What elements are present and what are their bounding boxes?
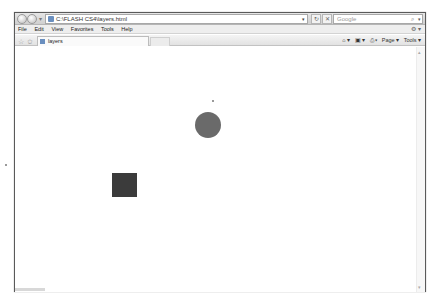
scroll-up-icon[interactable]: ▴: [418, 49, 421, 55]
command-bar: ⌂ ▾ ▣ ▾ ⎙ ▾ Page ▾ Tools ▾: [339, 35, 421, 46]
feeds-button[interactable]: ▣ ▾: [355, 37, 366, 43]
dark-square-shape: [112, 173, 137, 197]
address-text: C:\FLASH CS4\layers.html: [56, 16, 127, 22]
tab-bar: ☆ ✩ layers ⌂ ▾ ▣ ▾ ⎙ ▾ Page ▾ Tools ▾: [15, 35, 425, 46]
menu-help[interactable]: Help: [121, 26, 132, 32]
search-icon[interactable]: ⌕: [411, 15, 414, 23]
refresh-button[interactable]: ↻: [311, 14, 321, 24]
tab-layers[interactable]: layers: [37, 36, 149, 46]
vertical-scrollbar[interactable]: ▴ ▾: [416, 47, 425, 292]
menu-file[interactable]: File: [18, 26, 27, 32]
favorites-star-icon[interactable]: ☆: [18, 36, 24, 47]
page-icon: [40, 39, 45, 44]
menu-favorites[interactable]: Favorites: [71, 26, 94, 32]
small-dot: [5, 164, 7, 166]
small-dot: [212, 100, 214, 102]
menu-view[interactable]: View: [51, 26, 63, 32]
search-placeholder: Google: [337, 16, 356, 22]
address-dropdown-icon[interactable]: ▾: [302, 15, 305, 23]
search-input[interactable]: Google ⌕ ▾: [333, 14, 423, 24]
browser-window: ▾ C:\FLASH CS4\layers.html ▾ ↻ ✕ Google …: [14, 12, 426, 292]
back-button[interactable]: [17, 14, 27, 24]
menu-bar: File Edit View Favorites Tools Help ⚙ ▾: [15, 25, 425, 34]
new-tab-button[interactable]: [150, 37, 170, 46]
page-icon: [48, 16, 54, 22]
menu-edit[interactable]: Edit: [34, 26, 43, 32]
print-button[interactable]: ⎙ ▾: [370, 37, 378, 43]
status-bar-fragment: [15, 288, 45, 291]
page-menu-button[interactable]: Page ▾: [382, 37, 399, 43]
search-dropdown-icon[interactable]: ▾: [418, 15, 421, 23]
forward-button[interactable]: [27, 14, 37, 24]
scroll-down-icon[interactable]: ▾: [418, 284, 421, 290]
tab-title: layers: [48, 38, 63, 44]
stop-button[interactable]: ✕: [322, 14, 332, 24]
menu-tools[interactable]: Tools: [101, 26, 114, 32]
add-favorites-icon[interactable]: ✩: [27, 36, 33, 47]
page-content: [15, 47, 417, 292]
gray-circle-shape: [195, 112, 221, 138]
toolbar-options-icon[interactable]: ⚙ ▾: [411, 25, 421, 34]
history-dropdown-icon[interactable]: ▾: [39, 15, 42, 22]
address-bar[interactable]: C:\FLASH CS4\layers.html ▾: [45, 14, 308, 24]
address-toolbar: ▾ C:\FLASH CS4\layers.html ▾ ↻ ✕ Google …: [15, 13, 425, 25]
tools-menu-button[interactable]: Tools ▾: [404, 37, 421, 43]
home-button[interactable]: ⌂ ▾: [342, 37, 350, 43]
